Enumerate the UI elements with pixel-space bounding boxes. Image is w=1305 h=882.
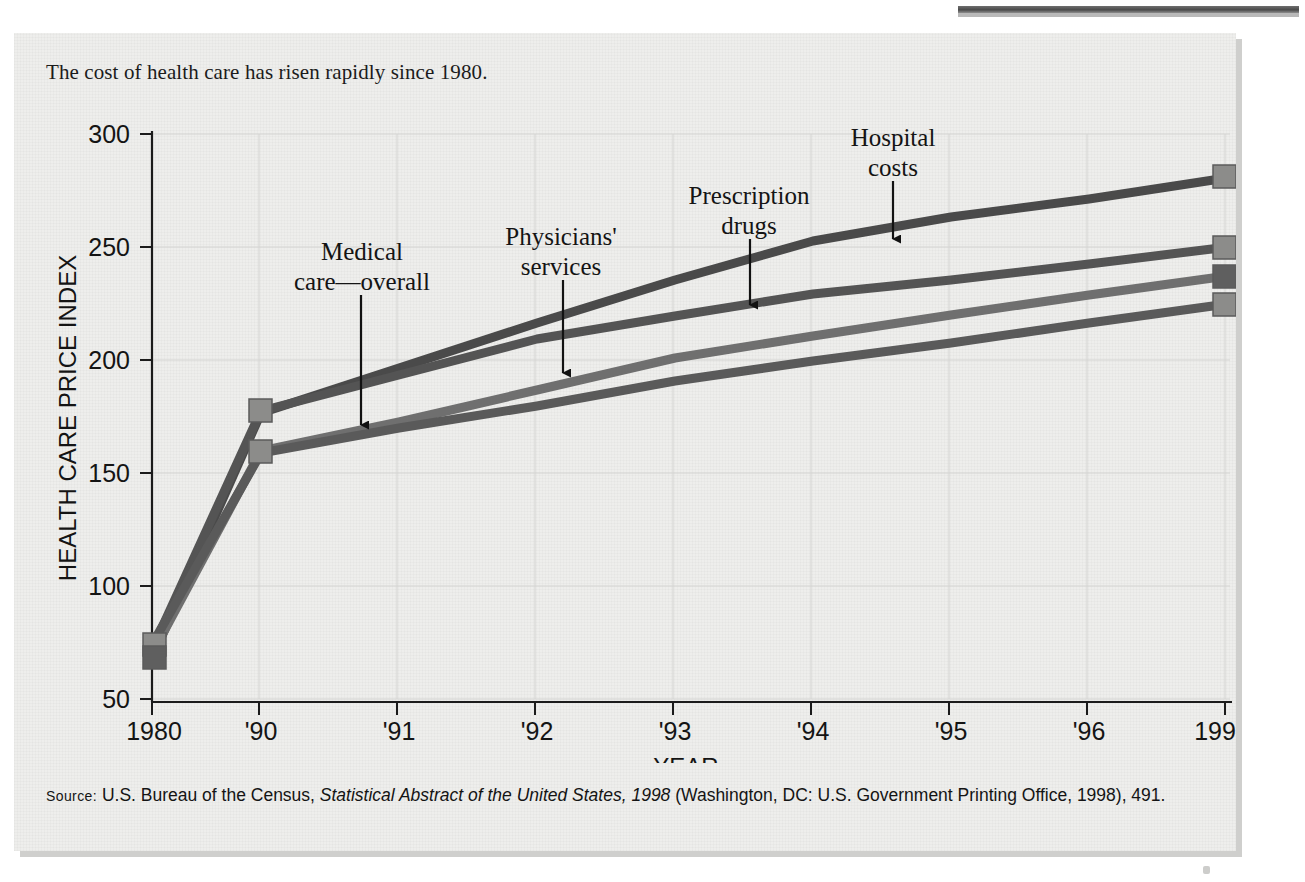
scan-speck	[1203, 866, 1210, 874]
chart-axes	[152, 131, 1232, 702]
x-tick-label-90: '90	[245, 717, 278, 745]
annotation-medical-care-overall-line2: care—overall	[294, 268, 430, 295]
source-text-before: U.S. Bureau of the Census,	[97, 785, 320, 805]
health-care-price-index-line-chart: 300 250 200 150 100 50 1980 '90 '91 '92 …	[14, 33, 1236, 763]
series-line-prescription-drugs	[154, 277, 1220, 650]
x-tick-label-94: '94	[797, 717, 830, 745]
x-tick-label-1980: 1980	[126, 717, 182, 745]
marker-prescription-drugs-1997	[1213, 265, 1236, 288]
x-axis-title: YEAR	[653, 753, 718, 763]
marker-hospital-costs-1997	[1213, 165, 1236, 188]
annotation-prescription-drugs-line2: drugs	[721, 212, 777, 239]
page-header-rule	[958, 6, 1299, 13]
scanned-figure-page: The cost of health care has risen rapidl…	[0, 0, 1305, 882]
source-text-after: (Washington, DC: U.S. Government Printin…	[670, 785, 1165, 805]
x-tick-label-95: '95	[935, 717, 968, 745]
marker-1980-lower	[143, 646, 166, 669]
annotation-prescription-drugs-line1: Prescription	[689, 182, 810, 209]
y-tick-label-200: 200	[88, 346, 130, 374]
annotation-hospital-costs-line2: costs	[868, 154, 918, 181]
annotation-hospital-costs-line1: Hospital	[851, 124, 936, 151]
source-note: Source: U.S. Bureau of the Census, Stati…	[46, 782, 1206, 809]
annotation-medical-care-overall-line1: Medical	[321, 238, 403, 265]
series-line-hospital-costs	[154, 179, 1220, 654]
marker-medical-care-overall-1990	[249, 399, 272, 422]
marker-medical-care-overall-1997	[1213, 236, 1236, 259]
x-tick-label-91: '91	[383, 717, 416, 745]
series-endpoint-markers	[143, 165, 1236, 669]
source-title-italic: Statistical Abstract of the United State…	[320, 785, 671, 805]
x-tick-label-93: '93	[659, 717, 692, 745]
figure-panel-shadow-bottom	[20, 851, 1242, 857]
page-header-rule-shadow	[958, 13, 1299, 17]
x-tick-label-92: '92	[521, 717, 554, 745]
x-axis-ticks	[152, 702, 1225, 715]
annotation-physicians-services-line1: Physicians'	[505, 223, 616, 250]
x-tick-label-96: '96	[1073, 717, 1106, 745]
source-label: Source:	[46, 788, 97, 804]
annotation-physicians-services-line2: services	[521, 253, 602, 280]
y-tick-label-50: 50	[102, 685, 130, 713]
marker-prescription-drugs-1990	[249, 440, 272, 463]
y-tick-label-100: 100	[88, 572, 130, 600]
y-tick-label-300: 300	[88, 120, 130, 148]
y-tick-label-150: 150	[88, 459, 130, 487]
x-tick-label-1997: 1997	[1194, 717, 1236, 745]
y-axis-ticks	[140, 134, 152, 699]
y-axis-title: HEALTH CARE PRICE INDEX	[54, 255, 81, 581]
marker-physicians-services-1997	[1213, 293, 1236, 316]
figure-panel-shadow-right	[1236, 39, 1242, 851]
chart-gridlines	[152, 134, 1230, 699]
y-tick-label-250: 250	[88, 233, 130, 261]
